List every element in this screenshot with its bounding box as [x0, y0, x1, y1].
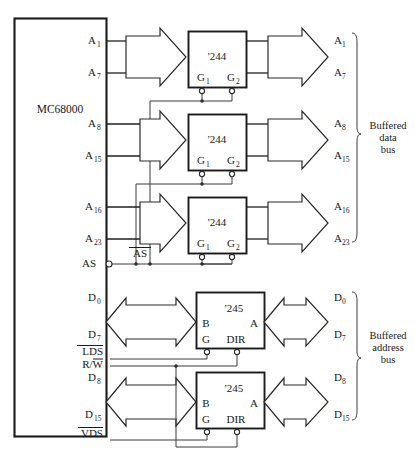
svg-text:A: A: [334, 66, 342, 78]
chip-u2-g1-bubble: [199, 171, 204, 176]
out-label-d15: D 15: [334, 408, 350, 423]
chip-u5-g-to-vds: [110, 435, 207, 440]
svg-text:G: G: [197, 237, 205, 249]
out-label-a16: A 16: [334, 200, 350, 215]
svg-text:D: D: [334, 291, 342, 303]
svg-text:G: G: [227, 71, 235, 83]
as-junction-u2: [134, 262, 138, 266]
chip-u2-part: '244: [208, 133, 227, 145]
svg-text:7: 7: [342, 72, 346, 81]
bus-arrow-d0-d7: [106, 298, 196, 346]
brace-upper: [352, 33, 361, 242]
chip-u3-g1-bubble: [199, 254, 204, 259]
bus-arrow-out-a1-a7: [268, 28, 328, 86]
svg-text:1: 1: [97, 40, 101, 49]
svg-text:AS: AS: [82, 257, 96, 269]
svg-text:23: 23: [94, 238, 102, 247]
svg-text:D: D: [88, 328, 96, 340]
svg-text:bus: bus: [381, 354, 396, 365]
svg-text:15: 15: [342, 155, 350, 164]
cpu-pin-rw: R/W: [82, 358, 103, 370]
out-label-a1: A 1: [334, 34, 346, 49]
brace-lower: [352, 292, 361, 420]
svg-text:A: A: [334, 149, 342, 161]
out-label-a8: A 8: [334, 117, 346, 132]
bus-arrow-a16-a23: [140, 194, 186, 252]
chip-u4-g-bubble: [204, 349, 209, 354]
bus-arrow-out-a16-a23: [268, 194, 328, 252]
svg-text:8: 8: [342, 123, 346, 132]
bus-arrow-a8-a15: [140, 111, 186, 169]
svg-text:15: 15: [94, 155, 102, 164]
svg-text:A: A: [85, 232, 93, 244]
chip-u1-g1-bubble: [199, 88, 204, 93]
rw-junction: [174, 364, 178, 368]
chip-u4-part: '245: [225, 302, 244, 314]
cpu-pin-as: AS: [82, 257, 96, 269]
svg-text:D: D: [88, 291, 96, 303]
out-label-d0: D 0: [334, 291, 346, 306]
svg-text:data: data: [379, 132, 397, 143]
svg-text:23: 23: [342, 238, 350, 247]
as-junction-u3: [200, 262, 204, 266]
cpu-pin-vds: VDS: [78, 427, 103, 439]
svg-text:Buffered: Buffered: [369, 330, 407, 341]
chip-u1-g2-bubble: [229, 88, 234, 93]
bus-arrow-d8-d15: [106, 378, 196, 426]
bus-arrow-out-a8-a15: [268, 111, 328, 169]
svg-text:15: 15: [342, 414, 350, 423]
svg-text:16: 16: [342, 206, 350, 215]
svg-text:7: 7: [342, 334, 346, 343]
svg-text:7: 7: [97, 334, 101, 343]
svg-text:0: 0: [342, 297, 346, 306]
svg-text:1: 1: [206, 77, 210, 86]
chip-u1-part: '244: [208, 50, 227, 62]
as-bubble: [106, 261, 112, 267]
chip-u2-g2-bubble: [229, 171, 234, 176]
svg-text:2: 2: [236, 77, 240, 86]
figure-root: MC68000 A 1 A 7 A 8 A 15 A 16 A 23: [0, 0, 415, 458]
svg-text:D: D: [334, 371, 342, 383]
svg-text:D: D: [85, 408, 93, 420]
svg-text:G: G: [197, 154, 205, 166]
svg-text:A: A: [88, 66, 96, 78]
chip-u4-pin-a: A: [250, 317, 258, 329]
cpu-label: MC68000: [37, 103, 84, 115]
out-label-a23: A 23: [334, 232, 350, 247]
svg-text:15: 15: [94, 414, 102, 423]
svg-text:1: 1: [206, 160, 210, 169]
chip-u5-g-bubble: [204, 429, 209, 434]
out-label-a7: A 7: [334, 66, 346, 81]
svg-text:D: D: [88, 371, 96, 383]
svg-text:R/W: R/W: [82, 358, 103, 370]
svg-text:address: address: [372, 342, 404, 353]
svg-text:G: G: [227, 237, 235, 249]
bus-arrow-out-d0-d7: [264, 298, 328, 346]
chip-u2-enable-wire: [202, 177, 232, 184]
chip-u4-pin-b: B: [202, 317, 209, 329]
svg-text:A: A: [88, 117, 96, 129]
mc68000-bus-buffer-diagram: MC68000 A 1 A 7 A 8 A 15 A 16 A 23: [0, 0, 415, 458]
chip-u5-dir-bubble: [234, 429, 239, 434]
svg-text:8: 8: [97, 377, 101, 386]
chip-u5-pin-dir: DIR: [227, 413, 247, 425]
chip-u1-enable-wire: [202, 94, 232, 101]
chip-u4-pin-dir: DIR: [227, 333, 247, 345]
chip-u5-pin-g: G: [202, 413, 210, 425]
svg-text:A: A: [88, 34, 96, 46]
svg-text:2: 2: [236, 160, 240, 169]
svg-text:D: D: [334, 328, 342, 340]
out-label-d7: D 7: [334, 328, 346, 343]
svg-text:0: 0: [97, 297, 101, 306]
svg-text:A: A: [334, 200, 342, 212]
bus-label-lower: Buffered address bus: [369, 330, 407, 365]
out-label-a15: A 15: [334, 149, 350, 164]
svg-text:G: G: [197, 71, 205, 83]
svg-text:AS: AS: [133, 247, 147, 259]
chip-u5-pin-b: B: [202, 397, 209, 409]
svg-text:16: 16: [94, 206, 102, 215]
bus-label-upper: Buffered data bus: [369, 120, 407, 155]
chip-u3-part: '244: [208, 216, 227, 228]
svg-text:7: 7: [97, 72, 101, 81]
chip-u4-g-to-lds: [110, 355, 207, 359]
